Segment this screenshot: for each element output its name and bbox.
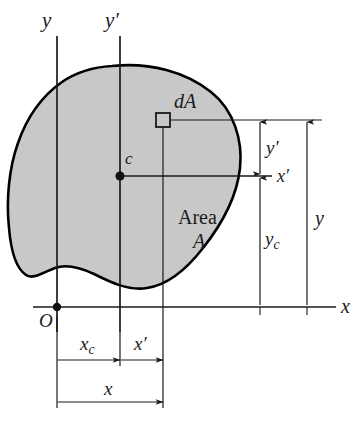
dimension-x-label: x [104,379,112,398]
axis-x-label: x [341,296,350,316]
axis-y-label: y [42,10,51,31]
origin-label: O [39,311,53,330]
dimension-y-label: y [315,208,324,228]
centroid-point [115,171,124,180]
dimension-x-prime-label: x′ [134,334,147,353]
dimension-y-prime-label: y′ [266,138,279,157]
element-dA-label: dA [174,91,196,111]
element-dA-square [156,113,170,127]
axis-y-prime-label: y′ [105,10,119,31]
vertical-dimension-extensions [260,307,307,315]
dimension-y-c-subscript: c [273,237,279,252]
area-symbol-label: A [193,231,205,251]
origin-point [53,303,61,311]
area-word-label: Area [178,207,217,227]
axis-x-prime-label: x′ [277,167,289,185]
dimension-y-c-label: yc [265,229,280,252]
centroid-label: c [125,150,133,167]
dimension-x-c-label: xc [80,334,95,357]
dimension-x-c-subscript: c [88,342,94,357]
centroid-diagram-figure: y y′ x x′ O c dA Area A y′ yc y xc x′ x [0,0,362,422]
